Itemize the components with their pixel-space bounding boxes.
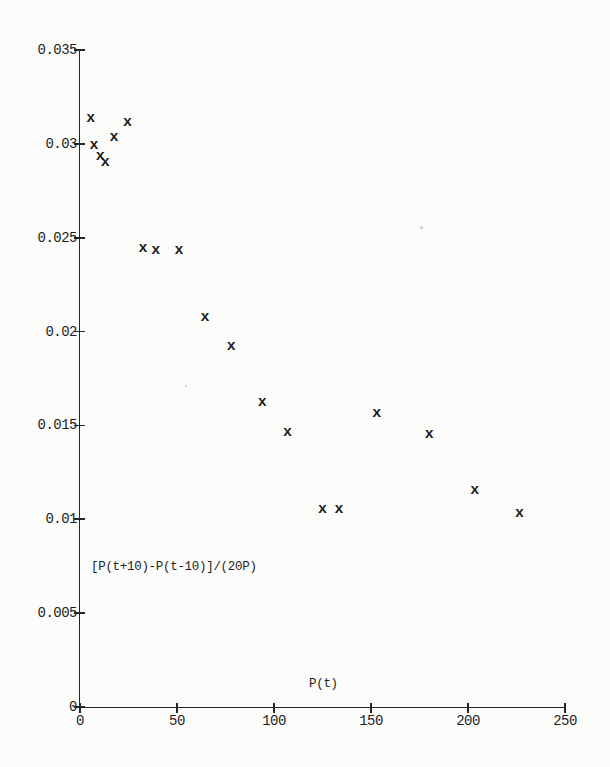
scatter-plot-figure: [P(t+10)-P(t-10)]/(20P) P(t) 00.0050.010… [0,0,610,767]
data-point-marker: x [425,427,434,442]
x-axis-tick [564,703,566,713]
x-axis-tick [176,703,178,713]
data-point-marker: x [283,425,292,440]
data-point-marker: x [123,115,132,130]
data-point-marker: x [227,339,236,354]
data-point-marker: x [139,241,148,256]
data-point-marker: x [515,506,524,521]
data-point-marker: x [151,243,160,258]
x-axis-tick [467,703,469,713]
y-tick-label: 0 [69,700,77,714]
x-axis-tick [79,703,81,713]
data-point-marker: x [372,406,381,421]
x-axis-label: P(t) [309,677,338,692]
x-tick-label: 100 [262,714,286,728]
x-tick-label: 200 [456,714,480,728]
data-point-marker: x [334,502,343,517]
y-tick-label: 0.02 [45,325,77,339]
y-tick-label: 0.015 [37,418,77,432]
x-tick-label: 50 [169,714,185,728]
scan-speck [185,385,187,387]
y-tick-label: 0.035 [37,43,77,57]
x-tick-label: 150 [359,714,383,728]
scan-speck [420,226,423,229]
y-tick-label: 0.025 [37,231,77,245]
data-point-marker: x [470,483,479,498]
x-axis-tick [273,703,275,713]
x-tick-label: 250 [553,714,577,728]
data-point-marker: x [86,112,95,127]
x-tick-label: 0 [76,714,84,728]
x-axis-tick [370,703,372,713]
data-point-marker: x [101,155,110,170]
y-axis-label: [P(t+10)-P(t-10)]/(20P) [91,560,257,575]
data-point-marker: x [258,395,267,410]
data-point-marker: x [201,310,210,325]
y-tick-label: 0.005 [37,606,77,620]
data-point-marker: x [318,502,327,517]
y-tick-label: 0.03 [45,137,77,151]
data-point-marker: x [174,243,183,258]
y-tick-label: 0.01 [45,512,77,526]
plot-area: [P(t+10)-P(t-10)]/(20P) P(t) 00.0050.010… [79,50,565,708]
data-point-marker: x [109,130,118,145]
